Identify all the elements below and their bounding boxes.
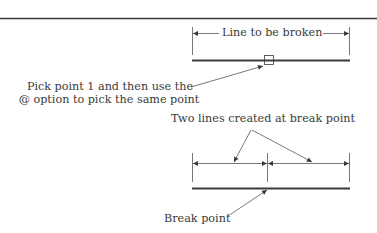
leader-arrow-segment-2 — [252, 130, 312, 162]
pick-point-callout-line1: Pick point 1 and then use the — [20, 81, 200, 93]
pick-leader-arrow — [191, 66, 263, 87]
line-to-be-broken-label: Line to be broken — [222, 27, 322, 39]
pick-point-callout-line2: @ option to pick the same point — [18, 94, 200, 106]
break-point-label: Break point — [164, 213, 230, 225]
two-lines-label: Two lines created at break point — [171, 113, 355, 125]
leader-arrow-segment-1 — [234, 130, 251, 162]
two-lines-group — [192, 130, 350, 216]
break-point-arrow — [228, 190, 267, 216]
